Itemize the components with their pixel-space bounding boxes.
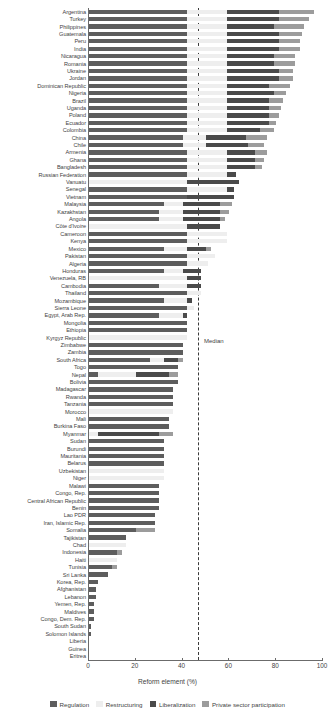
category-label: Pakistan: [0, 253, 89, 259]
bar-track: [89, 319, 323, 326]
bar-segment-regulation: [89, 187, 187, 191]
bar-track: [89, 82, 323, 89]
stacked-bar: [89, 239, 227, 243]
stacked-bar: [89, 343, 183, 347]
bar-row: Algeria: [0, 260, 335, 267]
category-label: Chad: [0, 542, 89, 548]
bar-row: Tajikistan: [0, 534, 335, 541]
stacked-bar: [89, 417, 169, 421]
bar-segment-private-sector-participation: [220, 210, 229, 214]
bar-segment-private-sector-participation: [159, 432, 173, 436]
bar-segment-liberalization: [227, 165, 255, 169]
bar-row: Ukraine: [0, 67, 335, 74]
category-label: Thailand: [0, 290, 89, 296]
bar-segment-regulation: [89, 387, 173, 391]
bar-segment-liberalization: [227, 91, 274, 95]
legend-item[interactable]: Private sector participation: [202, 701, 284, 708]
bar-segment-liberalization: [227, 113, 269, 117]
bar-row: Rwanda: [0, 393, 335, 400]
bar-track: [89, 549, 323, 556]
bar-track: [89, 223, 323, 230]
bar-segment-regulation: [89, 313, 159, 317]
bar-segment-regulation: [89, 135, 183, 139]
bar-segment-regulation: [89, 565, 112, 569]
bar-track: [89, 201, 323, 208]
category-label: Haiti: [0, 557, 89, 563]
bar-segment-regulation: [89, 202, 164, 206]
bar-track: [89, 230, 323, 237]
bar-row: Côte d'Ivoire: [0, 223, 335, 230]
stacked-bar: [89, 424, 169, 428]
bar-track: [89, 430, 323, 437]
stacked-bar: [89, 113, 279, 117]
bar-track: [89, 326, 323, 333]
bar-segment-private-sector-participation: [279, 39, 300, 43]
category-label: Togo: [0, 364, 89, 370]
category-label: Liberia: [0, 638, 89, 644]
category-label: Belarus: [0, 460, 89, 466]
bar-segment-private-sector-participation: [246, 135, 267, 139]
bar-segment-regulation: [89, 158, 187, 162]
bar-segment-regulation: [89, 165, 187, 169]
bar-segment-liberalization: [98, 432, 159, 436]
bar-segment-restructuring: [89, 543, 126, 547]
bar-row: Chile: [0, 141, 335, 148]
legend-item[interactable]: Regulation: [50, 701, 89, 708]
bar-track: [89, 112, 323, 119]
legend-item[interactable]: Liberalization: [150, 701, 196, 708]
bar-segment-restructuring: [187, 32, 227, 36]
stacked-bar: [89, 535, 126, 539]
bar-track: [89, 386, 323, 393]
category-label: Senegal: [0, 186, 89, 192]
stacked-bar: [89, 84, 290, 88]
bar-segment-restructuring: [159, 284, 187, 288]
bar-row: Ethiopia: [0, 326, 335, 333]
bar-track: [89, 356, 323, 363]
bar-row: Lao PDR: [0, 512, 335, 519]
bar-segment-liberalization: [227, 69, 278, 73]
bar-segment-regulation: [89, 350, 183, 354]
bar-track: [89, 519, 323, 526]
bar-row: Russian Federation: [0, 171, 335, 178]
category-label: Uzbekistan: [0, 468, 89, 474]
bar-segment-restructuring: [89, 476, 164, 480]
stacked-bar: [89, 121, 276, 125]
bar-segment-regulation: [89, 343, 183, 347]
bar-row: South Sudan: [0, 623, 335, 630]
bar-segment-liberalization: [136, 372, 169, 376]
stacked-bar: [89, 106, 281, 110]
bar-segment-regulation: [89, 113, 187, 117]
bar-segment-restructuring: [164, 247, 187, 251]
bar-segment-regulation: [89, 484, 159, 488]
bar-segment-private-sector-participation: [255, 165, 262, 169]
bar-row: Poland: [0, 112, 335, 119]
bar-segment-regulation: [89, 609, 94, 613]
bar-segment-private-sector-participation: [279, 47, 300, 51]
legend-item[interactable]: Restructuring: [96, 701, 142, 708]
category-label: Indonesia: [0, 549, 89, 555]
bar-segment-liberalization: [227, 10, 278, 14]
bar-segment-regulation: [89, 84, 187, 88]
bar-segment-liberalization: [183, 313, 188, 317]
stacked-bar: [89, 76, 293, 80]
stacked-bar: [89, 202, 232, 206]
bar-segment-liberalization: [187, 247, 206, 251]
bar-segment-regulation: [89, 232, 187, 236]
bar-track: [89, 364, 323, 371]
category-label: Turkey: [0, 16, 89, 22]
bar-track: [89, 401, 323, 408]
stacked-bar: [89, 313, 187, 317]
bar-segment-liberalization: [183, 217, 220, 221]
bar-segment-regulation: [89, 121, 187, 125]
bar-row: Malaysia: [0, 201, 335, 208]
bar-track: [89, 349, 323, 356]
bar-segment-restructuring: [187, 261, 208, 265]
stacked-bar: [89, 261, 208, 265]
bar-segment-restructuring: [187, 187, 227, 191]
bar-segment-restructuring: [187, 150, 227, 154]
stacked-bar: [89, 476, 164, 480]
stacked-bar: [89, 498, 159, 502]
bar-row: Armenia: [0, 149, 335, 156]
category-label: Poland: [0, 112, 89, 118]
x-tick: [182, 658, 183, 661]
